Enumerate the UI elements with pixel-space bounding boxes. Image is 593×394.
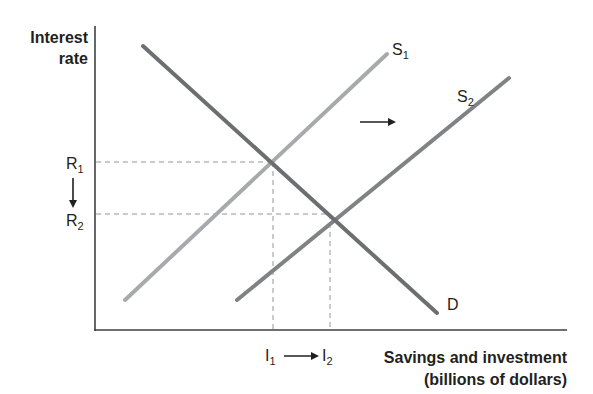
tick-r1: R1	[66, 156, 84, 172]
y-axis-label: Interest rate	[30, 27, 88, 69]
chart-canvas	[0, 0, 593, 394]
tick-i1: I1	[265, 348, 276, 364]
x-axis-label: Savings and investment (billions of doll…	[384, 347, 567, 391]
dashed-guides	[96, 162, 330, 330]
demand-curve	[143, 46, 437, 313]
label-s1: S1	[392, 42, 409, 58]
y-axis-label-line2: rate	[30, 48, 88, 69]
supply-curve-s2	[237, 78, 509, 300]
y-axis-label-line1: Interest	[30, 27, 88, 48]
tick-r2: R2	[66, 213, 84, 229]
label-d: D	[447, 297, 459, 313]
x-axis-label-line1: Savings and investment	[384, 347, 567, 369]
x-axis-label-line2: (billions of dollars)	[384, 369, 567, 391]
supply-curve-s1	[125, 54, 387, 300]
tick-i2: I2	[322, 348, 333, 364]
label-s2: S2	[457, 89, 474, 105]
